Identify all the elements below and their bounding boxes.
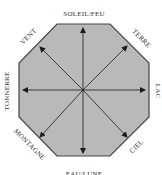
label-left: TONNERRE <box>3 72 11 111</box>
label-top-left: VENT <box>19 27 39 47</box>
label-right: LAC <box>154 84 162 99</box>
label-top: SOLEIL/FEU <box>63 10 104 18</box>
label-bottom: EAU/LUNE <box>66 170 103 175</box>
bagua-diagram: SOLEIL/FEU TERRE LAC CIEL EAU/LUNE MONTA… <box>0 0 162 175</box>
label-top-right: TERRE <box>130 28 152 50</box>
label-bottom-right: CIEL <box>128 138 145 155</box>
